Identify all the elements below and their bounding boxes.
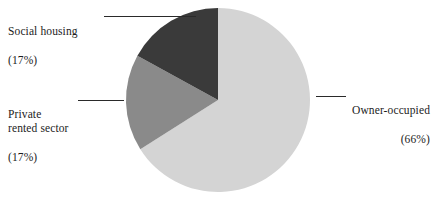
slice-label-private-rented: Private rented sector (17%) (8, 92, 120, 179)
slice-label-social-housing-value: (17%) (8, 53, 120, 68)
pie-chart: Social housing (17%) Private rented sect… (0, 0, 434, 201)
slice-label-social-housing-name: Social housing (8, 24, 120, 39)
slice-label-private-rented-value: (17%) (8, 150, 120, 165)
slice-label-owner-occupied: Owner-occupied (66%) (310, 88, 430, 161)
slice-label-social-housing: Social housing (17%) (8, 9, 120, 82)
pie-slices (126, 8, 310, 192)
slice-label-owner-occupied-name: Owner-occupied (310, 103, 430, 118)
slice-label-private-rented-name: Private rented sector (8, 107, 120, 136)
slice-label-owner-occupied-value: (66%) (310, 132, 430, 147)
